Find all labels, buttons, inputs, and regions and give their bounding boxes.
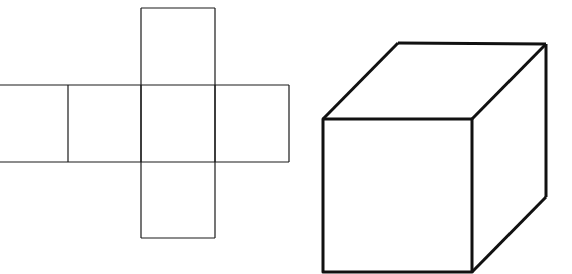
cube-net xyxy=(0,8,289,238)
cube-front-face xyxy=(323,119,472,272)
cube-bottom-right-edge xyxy=(472,197,546,272)
diagram-canvas xyxy=(0,0,572,274)
cube-3d xyxy=(323,43,546,272)
cube-top-right-edge xyxy=(472,44,546,119)
cube-top-left-edge xyxy=(323,43,398,119)
cube-back-top-edge xyxy=(398,43,546,44)
